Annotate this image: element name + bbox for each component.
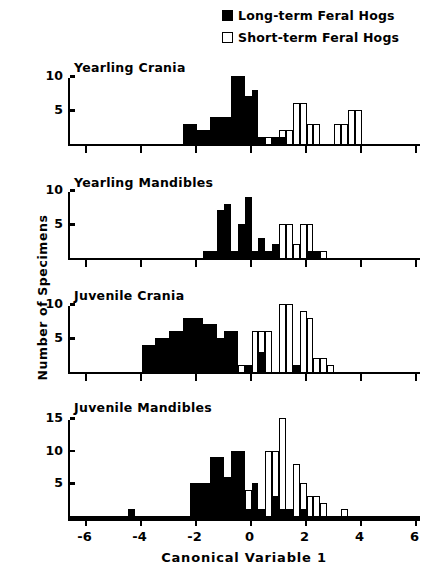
bar bbox=[293, 103, 300, 144]
bar bbox=[197, 483, 204, 516]
x-axis-line bbox=[68, 518, 420, 521]
bar bbox=[197, 130, 204, 144]
filled-square-icon bbox=[222, 10, 233, 21]
panel-baseline-tick bbox=[250, 374, 252, 381]
bar bbox=[327, 365, 334, 372]
y-tick-label: 5 bbox=[54, 102, 63, 117]
bar bbox=[210, 457, 217, 516]
panel-baseline-tick bbox=[250, 146, 252, 153]
legend-item-long-term: Long-term Feral Hogs bbox=[222, 4, 434, 26]
x-tick-label: -4 bbox=[132, 529, 146, 544]
bar bbox=[313, 251, 320, 258]
bar bbox=[355, 110, 362, 144]
y-tick-label: 15 bbox=[46, 410, 63, 425]
bar bbox=[203, 483, 210, 516]
legend-label-long-term: Long-term Feral Hogs bbox=[238, 8, 395, 23]
bar bbox=[252, 331, 259, 372]
x-tick-label: 0 bbox=[245, 529, 254, 544]
bar bbox=[320, 503, 327, 516]
bar bbox=[300, 509, 307, 516]
panel-baseline-tick bbox=[140, 374, 142, 381]
bar bbox=[258, 137, 265, 144]
bar bbox=[245, 96, 252, 144]
bar bbox=[224, 117, 231, 144]
panel-baseline-tick bbox=[85, 260, 87, 267]
bar bbox=[217, 338, 224, 372]
panel-baseline-tick bbox=[305, 374, 307, 381]
bar bbox=[210, 117, 217, 144]
panel-baseline-tick bbox=[415, 146, 417, 153]
bar bbox=[279, 509, 286, 516]
bar bbox=[265, 451, 272, 516]
y-tick-label: 10 bbox=[46, 68, 63, 83]
panel-title-2: Yearling Mandibles bbox=[74, 175, 213, 190]
panel-baseline-tick bbox=[305, 146, 307, 153]
bar bbox=[224, 477, 231, 516]
bar bbox=[238, 224, 245, 258]
bar bbox=[286, 509, 293, 516]
bar bbox=[252, 483, 259, 516]
panel-baseline-tick bbox=[140, 260, 142, 267]
bars-1 bbox=[70, 78, 420, 144]
bars-4 bbox=[70, 420, 420, 516]
panel-baseline-tick bbox=[195, 146, 197, 153]
bar bbox=[320, 251, 327, 258]
panel-baseline-tick bbox=[195, 518, 197, 525]
bar bbox=[231, 76, 238, 144]
panel-baseline-tick bbox=[140, 146, 142, 153]
panel-baseline-tick bbox=[250, 260, 252, 267]
bar bbox=[190, 124, 197, 144]
bar bbox=[272, 137, 279, 144]
bar bbox=[190, 318, 197, 372]
legend-item-short-term: Short-term Feral Hogs bbox=[222, 26, 434, 48]
bar bbox=[252, 90, 259, 144]
panel-baseline-tick bbox=[250, 518, 252, 525]
bar bbox=[320, 358, 327, 372]
bar bbox=[252, 251, 259, 258]
bar bbox=[231, 451, 238, 516]
bar bbox=[210, 251, 217, 258]
panel-baseline-tick bbox=[415, 260, 417, 267]
bar bbox=[142, 345, 149, 372]
bar bbox=[307, 318, 314, 372]
x-tick-label: 2 bbox=[300, 529, 309, 544]
x-tick-label: -2 bbox=[187, 529, 201, 544]
y-tick-label: 5 bbox=[54, 475, 63, 490]
bar bbox=[272, 244, 279, 258]
bar bbox=[272, 496, 279, 516]
bar bbox=[197, 318, 204, 372]
bar bbox=[245, 365, 252, 372]
panel-baseline-tick bbox=[415, 518, 417, 525]
panel-baseline-tick bbox=[415, 374, 417, 381]
bar bbox=[231, 331, 238, 372]
panel-baseline-tick bbox=[305, 260, 307, 267]
bar bbox=[313, 124, 320, 144]
bar bbox=[265, 331, 272, 372]
panel-baseline-tick bbox=[85, 146, 87, 153]
panel-baseline-tick bbox=[360, 146, 362, 153]
bar bbox=[231, 251, 238, 258]
x-tick-label: -6 bbox=[77, 529, 91, 544]
x-tick-label: 4 bbox=[355, 529, 364, 544]
bar bbox=[334, 124, 341, 144]
bar bbox=[238, 365, 245, 372]
bar bbox=[224, 204, 231, 258]
bar bbox=[238, 451, 245, 516]
x-axis-title: Canonical Variable 1 bbox=[68, 550, 420, 565]
panel-title-4: Juvenile Mandibles bbox=[74, 400, 212, 415]
panel-baseline-tick bbox=[140, 518, 142, 525]
figure-canvas: Long-term Feral Hogs Short-term Feral Ho… bbox=[0, 0, 437, 588]
bar bbox=[183, 124, 190, 144]
bar bbox=[128, 509, 135, 516]
bar bbox=[238, 76, 245, 144]
panel-baseline-tick bbox=[195, 374, 197, 381]
legend: Long-term Feral Hogs Short-term Feral Ho… bbox=[222, 4, 434, 48]
y-tick-label: 10 bbox=[46, 296, 63, 311]
bar bbox=[313, 358, 320, 372]
bar bbox=[341, 124, 348, 144]
bar bbox=[279, 137, 286, 144]
bar bbox=[224, 331, 231, 372]
bar bbox=[210, 324, 217, 372]
bar bbox=[300, 224, 307, 258]
bar bbox=[300, 311, 307, 372]
